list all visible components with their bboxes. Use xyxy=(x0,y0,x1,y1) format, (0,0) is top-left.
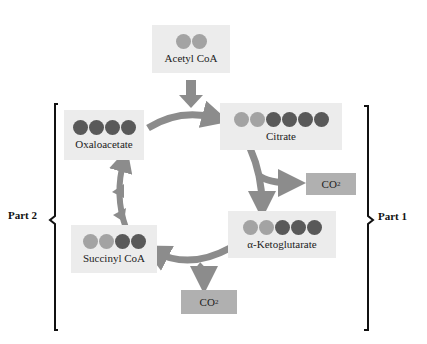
citrate-node: Citrate xyxy=(220,103,342,150)
carbon-icon xyxy=(291,220,306,235)
carbon-dots xyxy=(234,112,329,127)
left-bracket xyxy=(50,104,58,330)
co2-text: CO xyxy=(200,296,215,308)
node-label: Succinyl CoA xyxy=(83,252,145,264)
carbon-icon xyxy=(314,112,329,127)
acetyl-coa-arrow xyxy=(179,80,203,108)
co2-text: CO xyxy=(322,178,337,190)
succinyl-coa-node: Succinyl CoA xyxy=(71,225,157,273)
arrow-alpha-ketoglutarate-to-succinyl-coa xyxy=(155,248,230,260)
node-label: Citrate xyxy=(266,130,296,142)
carbon-icon xyxy=(99,234,114,249)
carbon-dots xyxy=(176,34,207,49)
node-label: α-Ketoglutarate xyxy=(247,238,316,250)
carbon-icon xyxy=(243,220,258,235)
carbon-icon xyxy=(89,120,104,135)
part-1-label: Part 1 xyxy=(378,210,407,222)
carbon-dots xyxy=(73,120,136,135)
carbon-icon xyxy=(307,220,322,235)
citric-acid-cycle-diagram: Acetyl CoA Oxaloacetate Citrate CO2 xyxy=(0,0,427,344)
part-2-label: Part 2 xyxy=(8,209,37,221)
co2-subscript: 2 xyxy=(337,180,341,188)
carbon-icon xyxy=(298,112,313,127)
arrow-oxaloacetate-to-citrate xyxy=(148,115,216,128)
carbon-icon xyxy=(73,120,88,135)
arrow-citrate-co2-branch xyxy=(258,175,292,183)
node-label: Acetyl CoA xyxy=(165,52,218,64)
oxaloacetate-node: Oxaloacetate xyxy=(64,110,144,160)
carbon-icon xyxy=(266,112,281,127)
co2-subscript: 2 xyxy=(215,298,219,306)
co2-output-2: CO2 xyxy=(181,290,237,314)
carbon-icon xyxy=(176,34,191,49)
carbon-dots xyxy=(243,220,322,235)
acetyl-coa-node: Acetyl CoA xyxy=(152,25,230,73)
carbon-icon xyxy=(83,234,98,249)
carbon-icon xyxy=(282,112,297,127)
carbon-icon xyxy=(115,234,130,249)
carbon-icon xyxy=(250,112,265,127)
node-label: Oxaloacetate xyxy=(75,138,132,150)
carbon-dots xyxy=(83,234,146,249)
carbon-icon xyxy=(105,120,120,135)
carbon-icon xyxy=(131,234,146,249)
carbon-icon xyxy=(192,34,207,49)
carbon-icon xyxy=(259,220,274,235)
carbon-icon xyxy=(275,220,290,235)
carbon-icon xyxy=(234,112,249,127)
alpha-ketoglutarate-node: α-Ketoglutarate xyxy=(228,211,336,258)
arrow-succinyl-co2-branch xyxy=(198,265,204,280)
co2-output-1: CO2 xyxy=(306,173,356,195)
right-bracket xyxy=(364,106,373,330)
carbon-icon xyxy=(121,120,136,135)
